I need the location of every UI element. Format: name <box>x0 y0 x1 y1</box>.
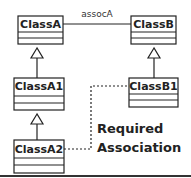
hollow-triangle-icon <box>31 48 43 58</box>
note-line-2: Association <box>97 140 181 155</box>
class-box-classb1[interactable]: ClassB1 <box>129 78 178 107</box>
class-name-classb1: ClassB1 <box>129 80 177 93</box>
class-name-classa: ClassA <box>20 18 61 31</box>
generalization-arrow-b1-b <box>148 48 160 78</box>
generalization-arrow-a1-a <box>31 48 43 78</box>
class-name-classa1: ClassA1 <box>15 80 64 93</box>
generalization-arrow-a2-a1 <box>31 114 43 140</box>
uml-diagram: ClassA ClassB assocA ClassA1 ClassB1 <box>0 0 191 178</box>
hollow-triangle-icon <box>148 48 160 58</box>
class-box-classa2[interactable]: ClassA2 <box>14 140 64 173</box>
class-box-classb[interactable]: ClassB <box>131 16 176 44</box>
note-line-1: Required <box>97 121 163 136</box>
association-label: assocA <box>81 9 113 19</box>
class-name-classb: ClassB <box>133 18 174 31</box>
association-assoca: assocA <box>63 9 131 24</box>
hollow-triangle-icon <box>31 114 43 124</box>
class-box-classa1[interactable]: ClassA1 <box>14 78 64 110</box>
class-box-classa[interactable]: ClassA <box>18 16 63 44</box>
class-name-classa2: ClassA2 <box>15 143 64 156</box>
